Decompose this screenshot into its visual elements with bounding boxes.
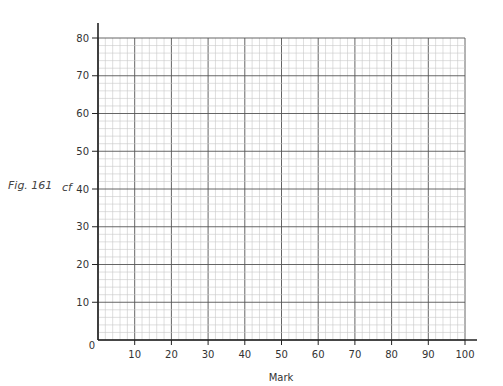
x-tick-label: 50: [275, 349, 288, 360]
x-tick-label: 60: [312, 349, 325, 360]
y-tick-label: 50: [76, 146, 89, 157]
x-tick-label: 20: [165, 349, 178, 360]
x-tick-label: 10: [128, 349, 141, 360]
x-tick-label: 70: [349, 349, 362, 360]
y-tick-label: 40: [76, 184, 89, 195]
x-tick-label: 30: [202, 349, 215, 360]
x-tick-label: 40: [238, 349, 251, 360]
cumulative-frequency-grid: 10203040506070809010010203040506070800 M…: [0, 0, 503, 386]
x-tick-label: 80: [385, 349, 398, 360]
y-tick-label: 80: [76, 33, 89, 44]
y-tick-label: 30: [76, 221, 89, 232]
origin-label: 0: [89, 340, 95, 351]
x-tick-label: 100: [455, 349, 474, 360]
y-tick-label: 70: [76, 70, 89, 81]
y-tick-label: 10: [76, 297, 89, 308]
x-tick-label: 90: [422, 349, 435, 360]
x-axis-label: Mark: [269, 372, 294, 383]
graph-paper-grid: [98, 38, 465, 340]
y-tick-label: 60: [76, 108, 89, 119]
axes: [92, 23, 477, 345]
y-tick-label: 20: [76, 259, 89, 270]
